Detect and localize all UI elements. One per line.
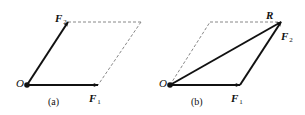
vector-f2-arrow bbox=[27, 22, 68, 85]
origin-point bbox=[24, 82, 30, 88]
dashed-line bbox=[98, 22, 141, 85]
panel-b bbox=[167, 22, 281, 88]
f2-label-b: F2 bbox=[281, 31, 293, 44]
origin-label-a: O bbox=[16, 78, 24, 89]
force-diagram: O F2 F1 (a) O R F2 F1 (b) bbox=[0, 0, 305, 115]
diagram-canvas bbox=[0, 0, 305, 115]
origin-label-b: O bbox=[159, 78, 167, 89]
f2-label-a: F2 bbox=[55, 13, 67, 26]
vector-r-arrow bbox=[170, 22, 281, 85]
caption-b: (b) bbox=[191, 97, 203, 107]
r-label-b: R bbox=[266, 10, 273, 21]
panel-a bbox=[24, 22, 141, 88]
dashed-line bbox=[170, 22, 210, 85]
vector-f2-arrow bbox=[240, 22, 281, 85]
origin-point bbox=[167, 82, 173, 88]
f1-label-b: F1 bbox=[231, 93, 243, 106]
f1-label-a: F1 bbox=[89, 93, 101, 106]
caption-a: (a) bbox=[48, 97, 59, 107]
